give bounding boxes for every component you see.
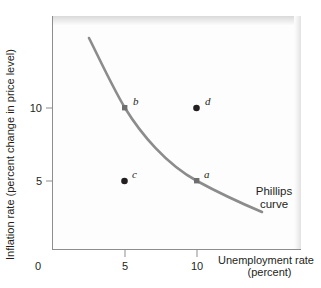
- x-tick-label-0: 0: [35, 260, 41, 272]
- data-point-d-marker: [193, 105, 200, 112]
- data-point-label-d: d: [205, 95, 211, 107]
- phillips-curve-line: [89, 38, 262, 212]
- x-axis-title: Unemployment rate (percent): [218, 254, 321, 278]
- data-point-a-marker: [194, 178, 199, 183]
- x-tick-label-10: 10: [191, 260, 203, 272]
- x-tick-label-5: 5: [122, 260, 128, 272]
- curve-annotation-line2: curve: [243, 198, 305, 211]
- y-axis-title: Inflation rate (percent change in price …: [4, 0, 20, 260]
- chart-vector-layer: [0, 0, 321, 288]
- data-point-label-a: a: [204, 168, 210, 180]
- data-point-b-marker: [122, 105, 127, 110]
- x-axis-title-line2: (percent): [218, 266, 321, 278]
- data-point-c-marker: [121, 178, 128, 185]
- data-point-label-b: b: [133, 95, 139, 107]
- phillips-curve-annotation: Phillips curve: [243, 185, 305, 211]
- x-axis-title-line1: Unemployment rate: [218, 254, 321, 266]
- curve-annotation-line1: Phillips: [243, 185, 305, 198]
- data-point-label-c: c: [132, 168, 137, 180]
- phillips-curve-figure: 10 5 0 5 10 Inflation rate (percent chan…: [0, 0, 321, 288]
